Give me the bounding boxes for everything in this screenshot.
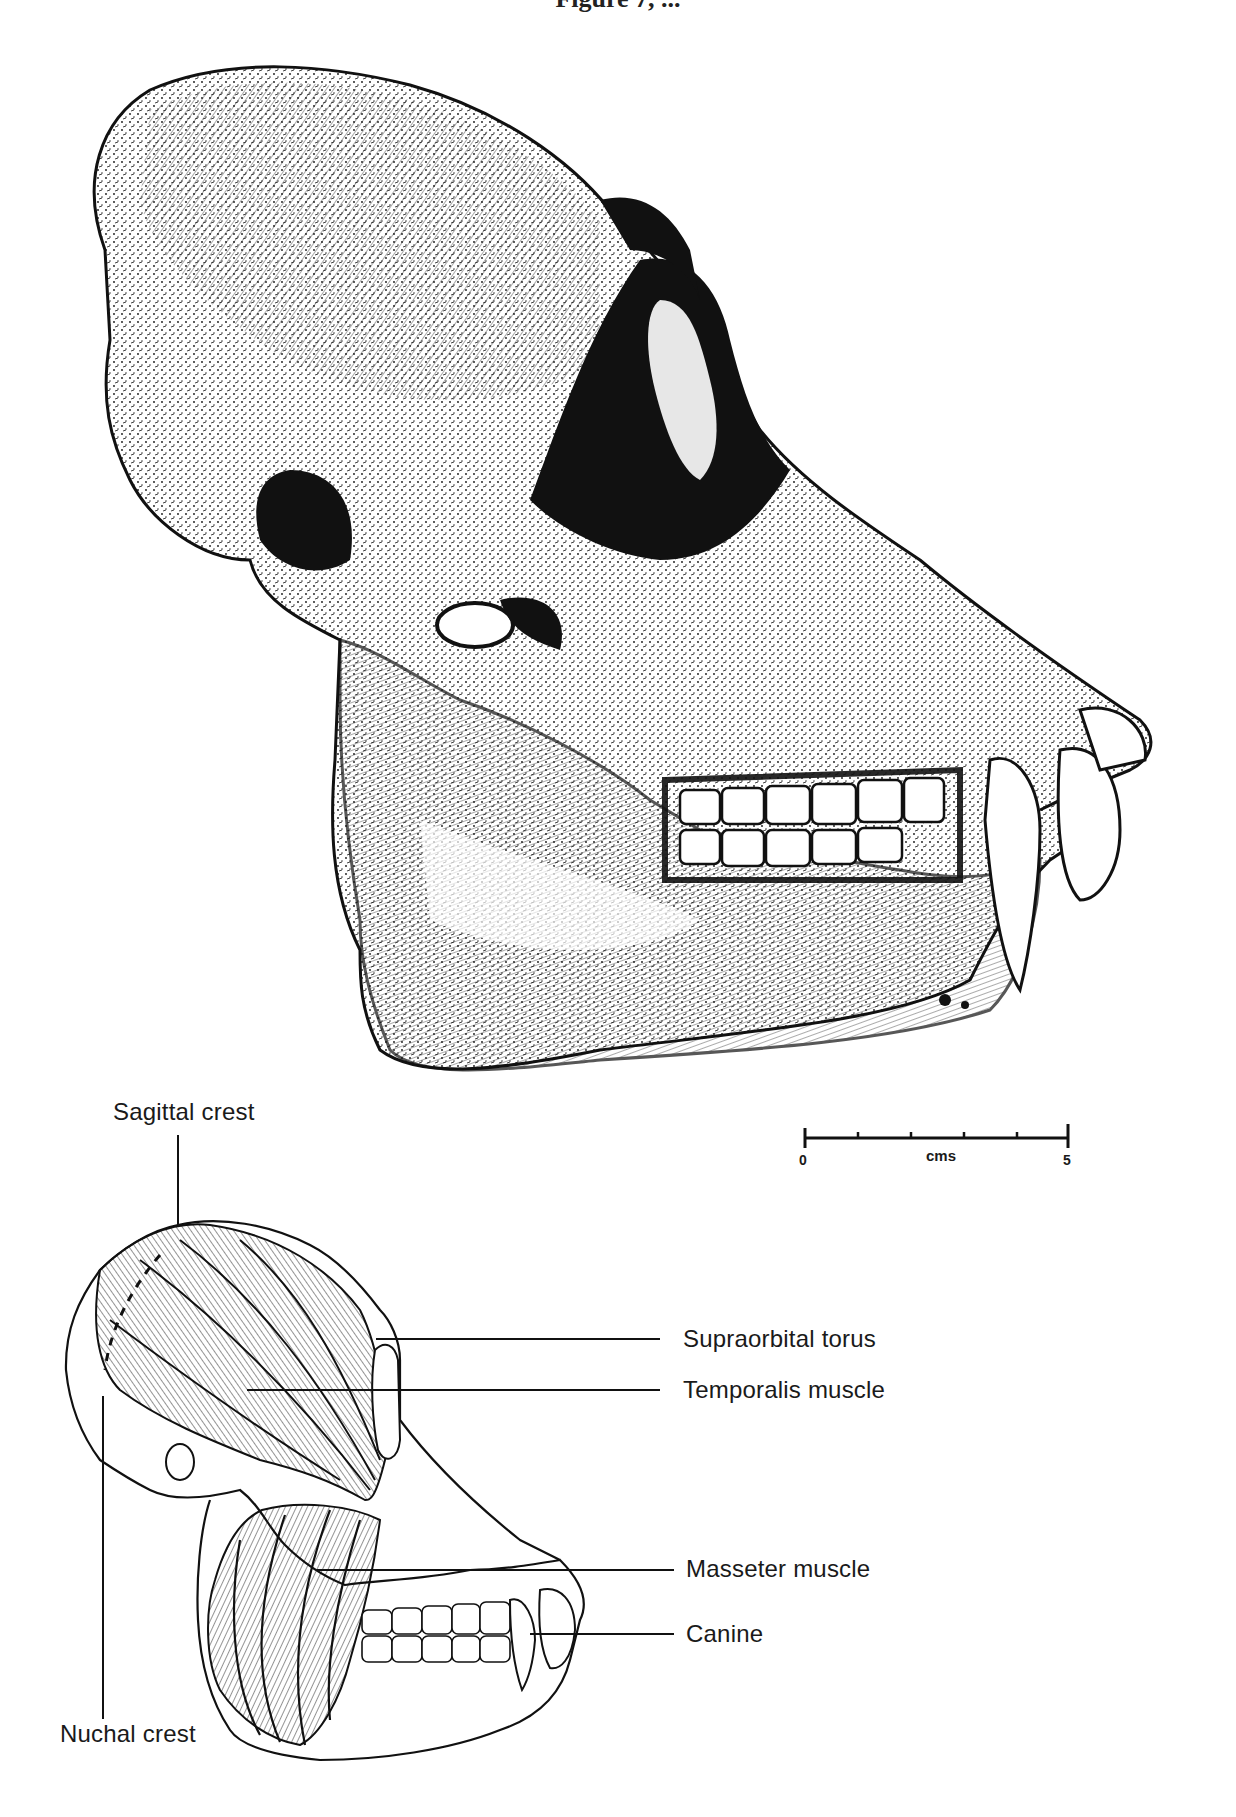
canine-outline bbox=[510, 1599, 535, 1690]
ear-opening bbox=[437, 603, 513, 647]
label-supraorbital-torus: Supraorbital torus bbox=[683, 1325, 876, 1353]
scale-start-label: 0 bbox=[799, 1152, 807, 1168]
scale-unit-label: cms bbox=[926, 1147, 956, 1164]
temporalis-muscle-shape bbox=[96, 1224, 386, 1500]
skull-outline bbox=[66, 1221, 584, 1760]
skull-illustration-detailed bbox=[0, 0, 1236, 1100]
teeth-outline bbox=[362, 1602, 510, 1662]
scale-end-label: 5 bbox=[1063, 1152, 1071, 1168]
label-canine: Canine bbox=[686, 1620, 763, 1648]
label-temporalis-muscle: Temporalis muscle bbox=[683, 1376, 885, 1404]
label-sagittal-crest: Sagittal crest bbox=[113, 1098, 255, 1126]
label-masseter-muscle: Masseter muscle bbox=[686, 1555, 870, 1583]
orbit-outline bbox=[372, 1345, 400, 1459]
ear-opening-outline bbox=[166, 1444, 194, 1480]
label-nuchal-crest: Nuchal crest bbox=[60, 1720, 196, 1748]
masseter-muscle-shape bbox=[208, 1505, 380, 1745]
